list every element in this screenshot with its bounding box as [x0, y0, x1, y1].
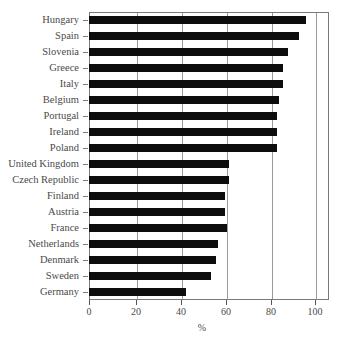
x-tick-label-20: 20	[131, 306, 141, 317]
y-tick	[83, 212, 88, 213]
category-label-germany: Germany	[40, 284, 79, 300]
y-tick	[83, 100, 88, 101]
bar-row	[89, 92, 329, 108]
category-label-finland: Finland	[47, 188, 79, 204]
bar-hungary	[89, 16, 306, 24]
y-tick	[83, 148, 88, 149]
bar-row	[89, 140, 329, 156]
y-tick	[83, 196, 88, 197]
y-tick	[83, 36, 88, 37]
bar-row	[89, 60, 329, 76]
category-label-ireland: Ireland	[49, 124, 79, 140]
bar-belgium	[89, 96, 279, 104]
y-tick	[83, 260, 88, 261]
bar-austria	[89, 208, 225, 216]
x-tick-80	[271, 300, 272, 305]
x-tick-label-0: 0	[87, 306, 92, 317]
bar-france	[89, 224, 227, 232]
bar-row	[89, 236, 329, 252]
x-tick-label-40: 40	[176, 306, 186, 317]
bar-ireland	[89, 128, 277, 136]
bar-row	[89, 204, 329, 220]
bar-finland	[89, 192, 225, 200]
bar-row	[89, 220, 329, 236]
category-label-france: France	[50, 220, 79, 236]
y-tick	[83, 20, 88, 21]
bar-row	[89, 12, 329, 28]
x-tick-label-60: 60	[221, 306, 231, 317]
category-label-sweden: Sweden	[46, 268, 79, 284]
bar-row	[89, 156, 329, 172]
category-label-spain: Spain	[55, 28, 79, 44]
x-tick-100	[315, 300, 316, 305]
bar-row	[89, 188, 329, 204]
y-tick	[83, 52, 88, 53]
bar-row	[89, 108, 329, 124]
category-label-denmark: Denmark	[40, 252, 79, 268]
horizontal-bar-chart: Hungary Spain Slovenia Greece Italy Belg…	[0, 0, 357, 342]
y-tick	[83, 244, 88, 245]
x-tick-0	[89, 300, 90, 305]
category-label-czech-republic: Czech Republic	[12, 172, 79, 188]
category-label-austria: Austria	[48, 204, 79, 220]
category-label-poland: Poland	[50, 140, 79, 156]
category-label-united-kingdom: United Kingdom	[8, 156, 79, 172]
bar-row	[89, 172, 329, 188]
y-tick	[83, 164, 88, 165]
category-label-italy: Italy	[60, 76, 79, 92]
category-label-portugal: Portugal	[43, 108, 79, 124]
y-tick	[83, 132, 88, 133]
bar-row	[89, 124, 329, 140]
bar-czech-republic	[89, 176, 229, 184]
bar-denmark	[89, 256, 216, 264]
x-tick-label-80: 80	[266, 306, 276, 317]
x-tick-40	[181, 300, 182, 305]
bar-netherlands	[89, 240, 218, 248]
bar-row	[89, 284, 329, 300]
bar-spain	[89, 32, 299, 40]
y-tick	[83, 116, 88, 117]
bar-italy	[89, 80, 283, 88]
bar-greece	[89, 64, 283, 72]
y-tick	[83, 276, 88, 277]
bar-row	[89, 28, 329, 44]
category-label-hungary: Hungary	[42, 12, 79, 28]
y-tick	[83, 292, 88, 293]
bar-portugal	[89, 112, 277, 120]
bar-germany	[89, 288, 186, 296]
category-label-greece: Greece	[49, 60, 79, 76]
y-tick	[83, 180, 88, 181]
category-label-netherlands: Netherlands	[28, 236, 79, 252]
bar-row	[89, 76, 329, 92]
bar-row	[89, 268, 329, 284]
category-axis: Hungary Spain Slovenia Greece Italy Belg…	[0, 12, 86, 300]
bar-poland	[89, 144, 277, 152]
category-label-belgium: Belgium	[43, 92, 79, 108]
bar-series	[89, 12, 329, 300]
x-tick-60	[226, 300, 227, 305]
y-tick	[83, 68, 88, 69]
x-tick-label-100: 100	[308, 306, 323, 317]
x-axis-title: %	[198, 322, 206, 333]
y-tick	[83, 228, 88, 229]
bar-row	[89, 44, 329, 60]
bar-sweden	[89, 272, 211, 280]
bar-slovenia	[89, 48, 288, 56]
x-tick-20	[136, 300, 137, 305]
y-tick	[83, 84, 88, 85]
bar-row	[89, 252, 329, 268]
value-axis: 0 20 40 60 80 100 %	[89, 300, 329, 342]
category-label-slovenia: Slovenia	[42, 44, 79, 60]
bar-united-kingdom	[89, 160, 229, 168]
